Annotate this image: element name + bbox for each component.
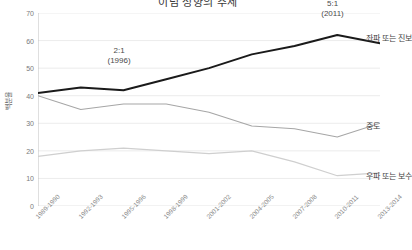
x-tick-label: 2001-2002: [205, 193, 232, 220]
series-label-2: 중도: [366, 120, 380, 131]
annotation-ratio: 2:1: [114, 46, 125, 55]
series-label-3: 우파 또는 보수: [366, 170, 412, 181]
annotation-1: 2:1(1996): [108, 46, 131, 66]
annotation-ratio: 5:1: [327, 0, 338, 8]
annotation-year: (2011): [321, 9, 344, 19]
x-tick-label: 2007-2008: [291, 193, 318, 220]
x-tick-label: 1995-1996: [120, 193, 147, 220]
x-tick-label: 1989-1990: [34, 193, 61, 220]
annotation-year: (1996): [108, 56, 131, 66]
x-tick-label: 2004-2005: [248, 193, 275, 220]
series-label-1: 좌파 또는 진보: [366, 32, 412, 43]
x-tick-label: 1992-1993: [77, 193, 104, 220]
x-tick-label: 2013-2014: [376, 193, 403, 220]
x-tick-label: 2010-2011: [333, 193, 360, 220]
x-tick-label: 1998-1999: [162, 193, 189, 220]
annotation-2: 5:1(2011): [321, 0, 344, 19]
